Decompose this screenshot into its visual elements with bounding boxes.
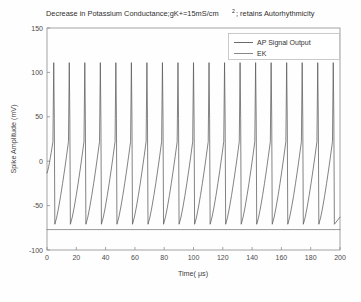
- y-tick-label: -100: [29, 247, 43, 254]
- x-tick-label: 160: [276, 254, 288, 261]
- legend-label-ap-signal-output: AP Signal Output: [257, 39, 311, 47]
- x-tick-label: 140: [246, 254, 258, 261]
- plot-frame: [47, 28, 340, 250]
- data-series-layer: [47, 63, 340, 230]
- x-tick-label: 200: [334, 254, 346, 261]
- x-tick-label: 0: [45, 254, 49, 261]
- y-tick-label: 0: [39, 158, 43, 165]
- y-tick-label: 50: [35, 113, 43, 120]
- chart-title-tail: ; retains Autorhythmicity: [236, 9, 315, 18]
- y-tick-label: 150: [31, 25, 43, 32]
- x-tick-label: 80: [160, 254, 168, 261]
- x-tick-label: 20: [72, 254, 80, 261]
- chart-title-group: Decrease in Potassium Conductance;gK+=15…: [46, 8, 315, 18]
- chart-title-superscript: 2: [232, 8, 235, 14]
- x-tick-label: 60: [131, 254, 139, 261]
- chart-legend[interactable]: AP Signal Output EK: [229, 34, 340, 60]
- y-tick-label: 100: [31, 69, 43, 76]
- x-axis-ticks: 020406080100120140160180200: [45, 247, 346, 261]
- chart-title-main: Decrease in Potassium Conductance;gK+=15…: [46, 9, 219, 18]
- x-tick-label: 180: [305, 254, 317, 261]
- legend-label-ek: EK: [257, 50, 267, 57]
- legend-box: [229, 34, 340, 60]
- x-tick-label: 40: [102, 254, 110, 261]
- chart-canvas: Decrease in Potassium Conductance;gK+=15…: [0, 0, 361, 302]
- y-axis-label: Spike Amplitude (mV): [9, 104, 18, 173]
- figure-container: Decrease in Potassium Conductance;gK+=15…: [0, 0, 361, 302]
- series-line-ap-signal-output: [47, 63, 340, 225]
- x-axis-label: Time( μs): [178, 269, 208, 278]
- x-tick-label: 120: [217, 254, 229, 261]
- y-tick-label: -50: [33, 202, 43, 209]
- x-tick-label: 100: [188, 254, 200, 261]
- plot-area-border: [47, 28, 340, 250]
